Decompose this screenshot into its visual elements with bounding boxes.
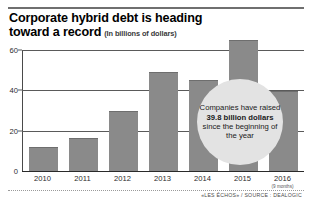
callout-text-before: Companies have raised: [200, 103, 281, 112]
x-label-2016-note: (9 months): [262, 184, 303, 189]
x-label-2011: 2011: [62, 174, 103, 183]
x-label-2016: 2016 (9 months): [262, 174, 303, 189]
y-tick-label-60: 60: [10, 46, 18, 55]
chart-figure: Corporate hybrid debt is heading toward …: [0, 0, 312, 207]
x-label-2016-year: 2016: [274, 174, 291, 183]
top-divider: [8, 7, 304, 9]
callout-highlight: 39.8 billion dollars: [206, 113, 273, 122]
callout-bubble: Companies have raised 39.8 billion dolla…: [197, 79, 283, 165]
callout-text-after: since the beginning of the year: [203, 122, 278, 140]
x-label-2015: 2015: [222, 174, 263, 183]
x-label-2014: 2014: [182, 174, 223, 183]
y-tick-label-40: 40: [10, 86, 18, 95]
x-label-2013: 2013: [142, 174, 183, 183]
bar-2011: [69, 138, 98, 171]
tick-dash-60: [18, 50, 22, 51]
bar-2012: [109, 111, 138, 172]
y-tick-label-20: 20: [10, 126, 18, 135]
title-block: Corporate hybrid debt is heading toward …: [9, 12, 259, 39]
page-title-line1: Corporate hybrid debt is heading: [9, 12, 259, 26]
y-tick-label-0: 0: [14, 167, 18, 176]
tick-dash-20: [18, 130, 22, 131]
x-label-2012: 2012: [102, 174, 143, 183]
x-label-2010: 2010: [22, 174, 63, 183]
tick-dash-40: [18, 90, 22, 91]
chart-subtitle: (In billions of dollars): [104, 29, 176, 38]
source-credit: «LES ÉCHOS» / SOURCE : DEALOGIC: [201, 192, 302, 198]
x-axis-line: 0: [22, 171, 304, 172]
bar-2013: [149, 72, 178, 171]
callout-text: Companies have raised 39.8 billion dolla…: [199, 103, 281, 141]
bar-2010: [29, 147, 58, 171]
